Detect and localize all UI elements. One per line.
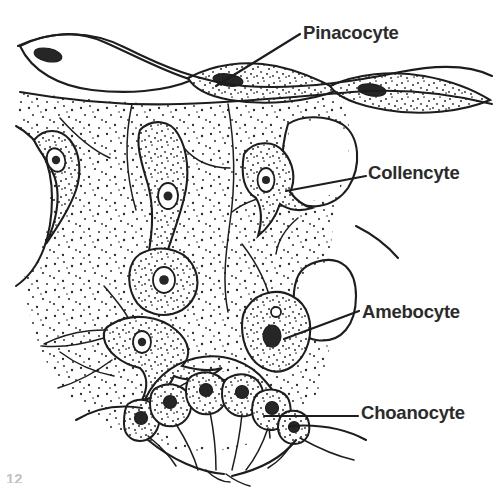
label-amebocyte: Amebocyte bbox=[362, 303, 460, 322]
nucleolus bbox=[262, 176, 270, 184]
label-collencyte: Collencyte bbox=[368, 164, 460, 183]
choanocyte-nucleus bbox=[135, 412, 148, 425]
amebocyte-nucleus bbox=[263, 325, 281, 347]
page-corner-mark: 12 bbox=[6, 470, 23, 483]
choanocyte-nucleus bbox=[236, 386, 249, 399]
label-pinacocyte: Pinacocyte bbox=[303, 24, 399, 43]
nucleolus bbox=[138, 338, 146, 346]
choanocyte-nucleus bbox=[164, 396, 177, 409]
nucleolus bbox=[159, 275, 169, 285]
nucleolus bbox=[164, 192, 173, 201]
choanocyte-nucleus bbox=[266, 402, 279, 415]
label-choanocyte: Choanocyte bbox=[361, 404, 465, 423]
choanocyte-nucleus bbox=[200, 384, 213, 397]
figure-root: Pinacocyte Collencyte Amebocyte Choanocy… bbox=[0, 0, 498, 489]
amebocyte-granule bbox=[271, 307, 281, 317]
nucleolus bbox=[52, 156, 60, 164]
